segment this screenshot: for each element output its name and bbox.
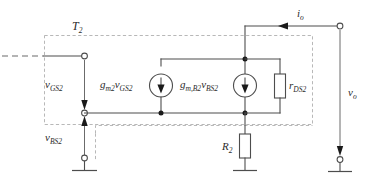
bulk-source-terminal[interactable] [82, 155, 88, 161]
label-r2: R2 [221, 140, 233, 155]
io-arrowhead [278, 23, 288, 30]
gate-terminal[interactable] [82, 53, 88, 59]
output-top-terminal[interactable] [337, 23, 343, 29]
output-bottom-terminal[interactable] [337, 157, 343, 163]
resistor-r2[interactable] [240, 134, 251, 158]
label-io: io [297, 7, 304, 22]
label-source2: gm,B2vBS2 [180, 78, 218, 93]
label-vo: vo [348, 86, 357, 101]
label-source1: gm2vGS2 [100, 78, 133, 93]
vgs2-arrowhead [81, 100, 87, 110]
label-transistor-block: T2 [72, 19, 83, 35]
junction-dot-src1 [159, 111, 164, 116]
vo-arrowhead [337, 146, 343, 156]
label-vgs2: vGS2 [45, 78, 63, 93]
circuit-svg: T2 vGS2 vBS2 gm2vGS2 gm,B2vBS2 rDS2 R2 i… [0, 0, 370, 185]
resistor-rds2[interactable] [275, 74, 286, 98]
circuit-diagram-canvas: T2 vGS2 vBS2 gm2vGS2 gm,B2vBS2 rDS2 R2 i… [0, 0, 370, 185]
vbs2-arrowhead [81, 116, 87, 126]
label-vbs2: vBS2 [45, 131, 62, 146]
inner-boundary-box [96, 126, 313, 134]
label-rds2: rDS2 [289, 79, 306, 94]
